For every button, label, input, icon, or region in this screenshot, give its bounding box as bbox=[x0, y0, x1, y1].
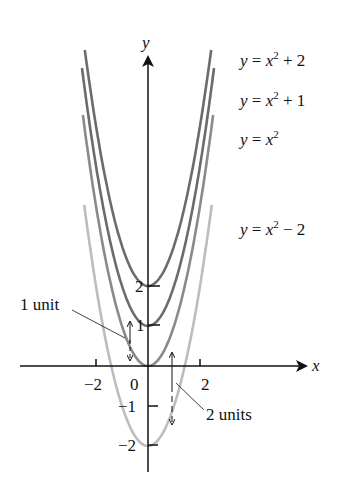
tick-label-y-1: 1 bbox=[136, 316, 145, 335]
x-axis-label: x bbox=[311, 356, 320, 375]
equation-label-minus2: y = x2 − 2 bbox=[238, 218, 305, 239]
tick-label-y-2: 2 bbox=[135, 277, 144, 296]
equation-label-plus2: y = x2 + 2 bbox=[238, 49, 305, 70]
parabola-shift-diagram: x y −2 0 2 2 1 −1 −2 1 unit 2 units y = … bbox=[0, 0, 351, 494]
tick-label-y-neg2: −2 bbox=[118, 436, 136, 455]
tick-label-x-neg2: −2 bbox=[84, 375, 102, 394]
tick-label-y-neg1: −1 bbox=[118, 397, 136, 416]
one-unit-leader bbox=[72, 310, 125, 338]
one-unit-label: 1 unit bbox=[20, 295, 59, 314]
two-units-label: 2 units bbox=[206, 405, 252, 424]
tick-label-x-0: 0 bbox=[130, 375, 139, 394]
equation-label-plus1: y = x2 + 1 bbox=[238, 89, 305, 110]
y-axis-label: y bbox=[140, 33, 150, 52]
tick-label-x-2: 2 bbox=[201, 375, 210, 394]
two-units-leader bbox=[176, 383, 204, 410]
equation-label-base: y = x2 bbox=[238, 128, 279, 149]
